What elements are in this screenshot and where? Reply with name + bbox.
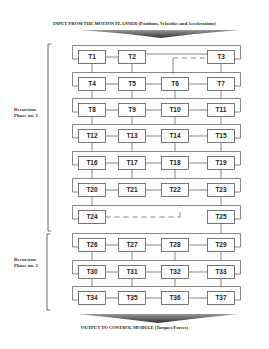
task-label-t30: T30 (86, 268, 98, 275)
task-label-t8: T8 (88, 106, 96, 113)
task-label-t11: T11 (216, 106, 227, 113)
task-label-t36: T36 (169, 294, 181, 301)
task-label-t25: T25 (215, 213, 227, 220)
phase-2-bracket (47, 234, 50, 310)
task-label-t28: T28 (169, 241, 181, 248)
task-label-t37: T37 (215, 294, 227, 301)
task-label-t22: T22 (169, 186, 181, 193)
task-label-t14: T14 (169, 132, 181, 139)
task-label-t16: T16 (86, 159, 98, 166)
task-label-t6: T6 (171, 80, 179, 87)
task-label-t21: T21 (126, 186, 138, 193)
task-label-t31: T31 (126, 268, 138, 275)
phase-1-bracket (48, 44, 51, 231)
output-arrow-icon (78, 314, 238, 323)
task-label-t1: T1 (88, 53, 96, 60)
task-label-t34: T34 (86, 294, 98, 301)
task-label-t33: T33 (215, 268, 227, 275)
task-label-t35: T35 (126, 294, 138, 301)
task-label-t12: T12 (86, 132, 98, 139)
task-graph: T1T2T3T4T5T6T7T8T9T10T11T12T13T14T15T16T… (0, 0, 269, 349)
task-label-t9: T9 (128, 106, 136, 113)
task-label-t19: T19 (215, 159, 227, 166)
task-label-t27: T27 (126, 241, 138, 248)
task-label-t15: T15 (215, 132, 227, 139)
task-label-t13: T13 (126, 132, 138, 139)
task-label-t17: T17 (126, 159, 138, 166)
input-arrow-icon (82, 30, 240, 38)
task-label-t7: T7 (217, 80, 225, 87)
task-label-t18: T18 (169, 159, 181, 166)
task-label-t2: T2 (128, 53, 136, 60)
task-label-t23: T23 (215, 186, 227, 193)
task-label-t4: T4 (88, 80, 96, 87)
task-label-t10: T10 (169, 106, 181, 113)
task-label-t29: T29 (215, 241, 227, 248)
task-label-t26: T26 (86, 241, 98, 248)
task-label-t5: T5 (128, 80, 136, 87)
task-label-t3: T3 (217, 53, 225, 60)
task-label-t24: T24 (86, 213, 98, 220)
task-label-t32: T32 (169, 268, 181, 275)
task-label-t20: T20 (86, 186, 98, 193)
